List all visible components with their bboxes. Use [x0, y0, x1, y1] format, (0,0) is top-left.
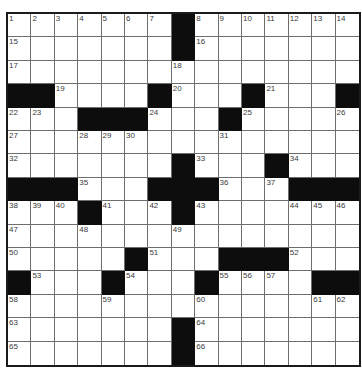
grid-cell[interactable]	[102, 84, 125, 107]
grid-cell[interactable]	[102, 248, 125, 271]
grid-cell[interactable]	[265, 225, 288, 248]
grid-cell[interactable]	[172, 271, 195, 294]
grid-cell[interactable]: 46	[336, 201, 359, 224]
grid-cell[interactable]	[242, 201, 265, 224]
grid-cell[interactable]	[219, 225, 242, 248]
grid-cell[interactable]: 56	[242, 271, 265, 294]
grid-cell[interactable]: 31	[219, 131, 242, 154]
grid-cell[interactable]	[312, 37, 335, 60]
grid-cell[interactable]	[55, 154, 78, 177]
grid-cell[interactable]	[31, 248, 54, 271]
grid-cell[interactable]	[265, 318, 288, 341]
grid-cell[interactable]: 17	[8, 61, 31, 84]
grid-cell[interactable]	[242, 178, 265, 201]
grid-cell[interactable]: 20	[172, 84, 195, 107]
grid-cell[interactable]	[265, 131, 288, 154]
grid-cell[interactable]	[31, 225, 54, 248]
grid-cell[interactable]	[125, 178, 148, 201]
grid-cell[interactable]	[78, 37, 101, 60]
grid-cell[interactable]	[102, 225, 125, 248]
grid-cell[interactable]	[289, 131, 312, 154]
grid-cell[interactable]	[125, 225, 148, 248]
grid-cell[interactable]	[55, 318, 78, 341]
grid-cell[interactable]: 54	[125, 271, 148, 294]
grid-cell[interactable]	[336, 318, 359, 341]
grid-cell[interactable]	[125, 61, 148, 84]
grid-cell[interactable]	[31, 154, 54, 177]
grid-cell[interactable]	[78, 61, 101, 84]
grid-cell[interactable]: 43	[195, 201, 218, 224]
grid-cell[interactable]: 14	[336, 14, 359, 37]
grid-cell[interactable]	[31, 37, 54, 60]
grid-cell[interactable]	[148, 271, 171, 294]
grid-cell[interactable]: 29	[102, 131, 125, 154]
grid-cell[interactable]	[336, 248, 359, 271]
grid-cell[interactable]: 33	[195, 154, 218, 177]
grid-cell[interactable]	[195, 248, 218, 271]
grid-cell[interactable]: 38	[8, 201, 31, 224]
grid-cell[interactable]: 4	[78, 14, 101, 37]
grid-cell[interactable]: 10	[242, 14, 265, 37]
grid-cell[interactable]	[219, 201, 242, 224]
grid-cell[interactable]	[265, 108, 288, 131]
grid-cell[interactable]	[195, 131, 218, 154]
grid-cell[interactable]	[102, 61, 125, 84]
grid-cell[interactable]	[55, 131, 78, 154]
grid-cell[interactable]	[125, 295, 148, 318]
grid-cell[interactable]	[265, 37, 288, 60]
grid-cell[interactable]	[78, 342, 101, 365]
grid-cell[interactable]	[242, 61, 265, 84]
grid-cell[interactable]	[195, 61, 218, 84]
grid-cell[interactable]: 58	[8, 295, 31, 318]
grid-cell[interactable]	[242, 225, 265, 248]
grid-cell[interactable]: 1	[8, 14, 31, 37]
grid-cell[interactable]	[31, 318, 54, 341]
grid-cell[interactable]	[242, 295, 265, 318]
grid-cell[interactable]: 27	[8, 131, 31, 154]
grid-cell[interactable]	[312, 318, 335, 341]
grid-cell[interactable]: 11	[265, 14, 288, 37]
grid-cell[interactable]	[55, 108, 78, 131]
grid-cell[interactable]: 5	[102, 14, 125, 37]
grid-cell[interactable]	[336, 61, 359, 84]
grid-cell[interactable]	[336, 342, 359, 365]
grid-cell[interactable]	[148, 37, 171, 60]
grid-cell[interactable]: 13	[312, 14, 335, 37]
grid-cell[interactable]: 41	[102, 201, 125, 224]
grid-cell[interactable]: 64	[195, 318, 218, 341]
grid-cell[interactable]	[219, 318, 242, 341]
grid-cell[interactable]: 50	[8, 248, 31, 271]
grid-cell[interactable]	[148, 61, 171, 84]
grid-cell[interactable]: 35	[78, 178, 101, 201]
grid-cell[interactable]	[78, 248, 101, 271]
grid-cell[interactable]: 30	[125, 131, 148, 154]
grid-cell[interactable]	[172, 108, 195, 131]
grid-cell[interactable]: 7	[148, 14, 171, 37]
grid-cell[interactable]: 53	[31, 271, 54, 294]
grid-cell[interactable]: 19	[55, 84, 78, 107]
grid-cell[interactable]: 51	[148, 248, 171, 271]
grid-cell[interactable]	[148, 318, 171, 341]
grid-cell[interactable]: 22	[8, 108, 31, 131]
grid-cell[interactable]	[219, 37, 242, 60]
grid-cell[interactable]: 16	[195, 37, 218, 60]
grid-cell[interactable]	[31, 295, 54, 318]
grid-cell[interactable]: 6	[125, 14, 148, 37]
grid-cell[interactable]	[336, 131, 359, 154]
grid-cell[interactable]: 40	[55, 201, 78, 224]
grid-cell[interactable]	[148, 131, 171, 154]
grid-cell[interactable]	[125, 318, 148, 341]
grid-cell[interactable]	[78, 84, 101, 107]
grid-cell[interactable]	[312, 225, 335, 248]
grid-cell[interactable]: 23	[31, 108, 54, 131]
grid-cell[interactable]	[289, 61, 312, 84]
grid-cell[interactable]: 15	[8, 37, 31, 60]
grid-cell[interactable]	[289, 37, 312, 60]
grid-cell[interactable]: 49	[172, 225, 195, 248]
grid-cell[interactable]	[242, 131, 265, 154]
grid-cell[interactable]: 45	[312, 201, 335, 224]
grid-cell[interactable]: 18	[172, 61, 195, 84]
grid-cell[interactable]: 62	[336, 295, 359, 318]
grid-cell[interactable]	[125, 84, 148, 107]
grid-cell[interactable]	[102, 154, 125, 177]
